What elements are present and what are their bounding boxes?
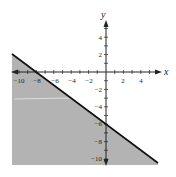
x-tick-label: −8 — [33, 77, 41, 85]
x-axis-label: x — [163, 66, 169, 77]
y-tick-label: −4 — [95, 103, 103, 111]
x-tick-label: 4 — [139, 77, 143, 85]
x-tick-label: −6 — [51, 77, 59, 85]
x-tick-label: 2 — [121, 77, 125, 85]
y-tick-label: 2 — [99, 51, 103, 59]
inequality-graph: −10 −8 −6 −4 −2 2 4 4 2 −2 −4 −6 −8 −10 … — [0, 0, 176, 177]
x-axis-right-arrow-icon — [155, 70, 162, 75]
x-tick-label: −4 — [68, 77, 76, 85]
y-tick-label: −6 — [95, 120, 103, 128]
y-tick-label: −8 — [95, 138, 103, 146]
y-tick-label: 4 — [99, 34, 103, 42]
x-tick-label: −2 — [85, 77, 93, 85]
y-axis-label: y — [100, 9, 106, 20]
y-tick-label: −2 — [95, 86, 103, 94]
y-tick-label: −10 — [91, 155, 102, 163]
x-tick-label: −10 — [14, 77, 25, 85]
y-axis-up-arrow-icon — [104, 20, 109, 27]
